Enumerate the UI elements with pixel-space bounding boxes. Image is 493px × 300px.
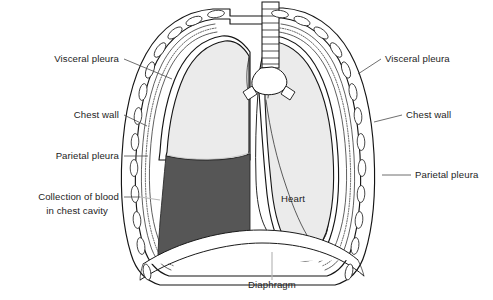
rib-cross-section <box>138 83 148 101</box>
rib-cross-section <box>131 185 139 202</box>
left-lung-group <box>159 36 250 160</box>
label-heart: Heart <box>281 193 305 204</box>
label-collection-of-blood-line1: Collection of blood <box>38 191 119 202</box>
rib-cross-section <box>133 107 142 125</box>
rib-cross-section <box>354 211 363 229</box>
label-chest-wall-right: Chest wall <box>406 109 451 120</box>
rib-cross-section <box>132 211 141 229</box>
label-parietal-pleura-right: Parietal pleura <box>415 169 479 180</box>
rib-cross-section <box>293 14 312 27</box>
rib-cross-section <box>353 107 362 125</box>
label-visceral-pleura-right: Visceral pleura <box>385 53 450 64</box>
rib-cross-section <box>136 237 146 255</box>
rib-cross-section <box>185 14 204 27</box>
label-parietal-pleura-left: Parietal pleura <box>56 150 120 161</box>
left-lung-parenchyma <box>166 41 249 160</box>
carina <box>252 67 287 95</box>
label-visceral-pleura-left: Visceral pleura <box>54 53 119 64</box>
anatomical-diagram: Visceral pleura Chest wall Parietal pleu… <box>0 0 493 300</box>
rib-cross-section <box>131 133 139 150</box>
leader-chest-wall-right <box>374 115 402 122</box>
label-chest-wall-left: Chest wall <box>74 109 119 120</box>
rib-cross-section <box>350 237 360 255</box>
rib-cross-section <box>344 263 354 280</box>
rib-cross-section <box>357 133 365 150</box>
rib-cross-section <box>357 185 365 202</box>
rib-cross-section <box>207 9 225 18</box>
rib-cross-section <box>340 61 353 80</box>
leader-visceral-pleura-right <box>358 59 381 74</box>
rib-cross-section <box>328 41 344 59</box>
label-collection-of-blood-line2: in chest cavity <box>46 205 108 216</box>
hemothorax-illustration: Visceral pleura Chest wall Parietal pleu… <box>0 0 493 300</box>
label-diaphragm: Diaphragm <box>248 279 296 290</box>
rib-cross-section <box>348 83 358 101</box>
rib-cross-section <box>358 160 366 177</box>
rib-cross-section <box>130 160 138 177</box>
